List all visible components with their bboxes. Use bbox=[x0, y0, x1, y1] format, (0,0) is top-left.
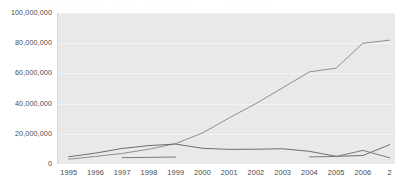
line-chart: 020,000,00040,000,00060,000,00080,000,00… bbox=[0, 0, 395, 193]
series-layer bbox=[58, 13, 395, 164]
y-axis-tick-label: 100,000,000 bbox=[11, 9, 52, 17]
x-axis-tick-label: 2 bbox=[388, 168, 392, 177]
x-axis-tick-label: 2002 bbox=[247, 168, 264, 177]
y-axis-tick-label: 80,000,000 bbox=[15, 39, 52, 47]
y-axis-tick-label: 0 bbox=[48, 160, 52, 168]
x-axis-tick-label: 2006 bbox=[354, 168, 371, 177]
bottom-padding bbox=[0, 186, 395, 193]
x-axis-tick-label: 2004 bbox=[301, 168, 318, 177]
x-axis-tick-label: 2000 bbox=[194, 168, 211, 177]
x-axis-tick-label: 1998 bbox=[141, 168, 158, 177]
y-axis-tick-label: 40,000,000 bbox=[15, 100, 52, 108]
x-axis-tick-label: 2001 bbox=[221, 168, 238, 177]
series-line bbox=[309, 150, 389, 157]
x-axis-tick-label: 1999 bbox=[167, 168, 184, 177]
plot-area bbox=[58, 13, 395, 164]
y-axis-tick-label: 20,000,000 bbox=[15, 130, 52, 138]
series-line bbox=[69, 40, 390, 159]
y-axis-tick-label: 60,000,000 bbox=[15, 69, 52, 77]
x-axis-tick-label: 2005 bbox=[328, 168, 345, 177]
series-line bbox=[122, 157, 175, 158]
top-ghost-strip bbox=[0, 0, 395, 11]
x-axis-tick-label: 1997 bbox=[114, 168, 131, 177]
x-axis: 1995199619971998199920002001200220032004… bbox=[58, 166, 395, 186]
x-axis-tick-label: 1996 bbox=[87, 168, 104, 177]
y-axis: 020,000,00040,000,00060,000,00080,000,00… bbox=[0, 13, 56, 164]
x-axis-tick-label: 2003 bbox=[274, 168, 291, 177]
x-axis-tick-label: 1995 bbox=[60, 168, 77, 177]
